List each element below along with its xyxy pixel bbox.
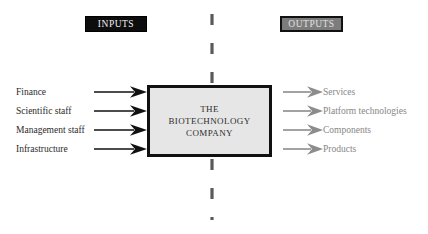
outputs-badge: OUTPUTS xyxy=(280,16,343,32)
output-arrow-icon-3 xyxy=(283,124,323,136)
company-box-line-3: COMPANY xyxy=(186,127,233,139)
input-arrow-icon-1 xyxy=(94,86,147,98)
company-box-line-2: BIOTECHNOLOGY xyxy=(168,115,250,127)
output-arrow-icon-1 xyxy=(283,86,323,98)
output-arrow-icon-2 xyxy=(283,105,323,117)
input-label-management-staff: Management staff xyxy=(16,124,85,136)
company-box-line-1: THE xyxy=(200,103,219,115)
input-arrow-icon-4 xyxy=(94,143,147,155)
input-arrow-icon-3 xyxy=(94,124,147,136)
output-arrow-icon-4 xyxy=(283,143,323,155)
input-label-infrastructure: Infrastructure xyxy=(16,143,68,155)
diagram-canvas: INPUTS OUTPUTS THE BIOTECHNOLOGY COMPANY… xyxy=(0,0,428,234)
inputs-badge: INPUTS xyxy=(85,16,147,32)
output-label-products: Products xyxy=(323,143,356,155)
output-label-services: Services xyxy=(323,86,355,98)
input-arrow-icon-2 xyxy=(94,105,147,117)
company-box: THE BIOTECHNOLOGY COMPANY xyxy=(147,85,272,157)
input-label-finance: Finance xyxy=(16,86,46,98)
output-label-platform-technologies: Platform technologies xyxy=(323,105,407,117)
output-label-components: Components xyxy=(323,124,371,136)
input-label-scientific-staff: Scientific staff xyxy=(16,105,72,117)
